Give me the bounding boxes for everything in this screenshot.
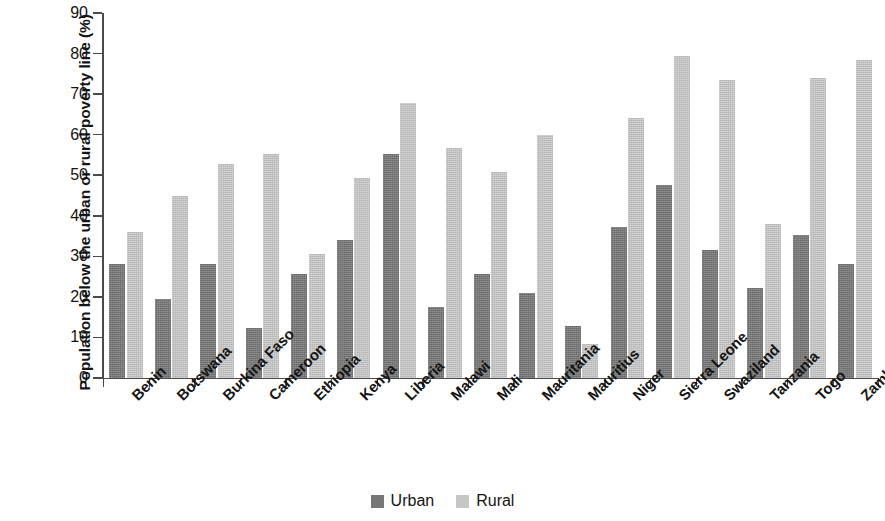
x-axis-tick-label: Burkina Faso [219, 391, 231, 403]
x-axis-tick-label: Liberia [401, 391, 413, 403]
legend-label: Urban [391, 492, 435, 510]
bar-urban-niger [611, 227, 627, 378]
bar-rural-kenya [354, 178, 370, 378]
bar-rural-malawi [446, 148, 462, 378]
y-axis-tick [93, 93, 102, 95]
x-axis-tick [149, 378, 150, 387]
bar-rural-liberia [400, 103, 416, 378]
bar-urban-burkina-faso [200, 264, 216, 378]
legend-item-rural[interactable]: Rural [456, 492, 514, 510]
y-axis-tick [93, 256, 102, 258]
x-axis-tick-label: Sierra Leone [675, 391, 687, 403]
x-axis-tick-label: Malawi [447, 391, 459, 403]
y-axis-tick-label: 40 [48, 207, 88, 225]
bar-chart: Population below the urban or rural pove… [0, 0, 885, 521]
x-axis-tick-label: Tanzania [766, 391, 778, 403]
y-axis-tick-label: 0 [48, 369, 88, 387]
bar-urban-malawi [428, 307, 444, 378]
bar-rural-niger [628, 118, 644, 378]
bar-group [103, 13, 149, 378]
x-axis-tick-label: Cameroon [265, 391, 277, 403]
x-axis-tick [650, 378, 651, 387]
bar-rural-sierra-leone [674, 56, 690, 378]
bar-group [513, 13, 559, 378]
y-axis-tick-label: 10 [48, 328, 88, 346]
x-axis-tick [696, 378, 697, 387]
bar-group [285, 13, 331, 378]
x-axis-tick-label: Swaziland [720, 391, 732, 403]
y-axis-tick [93, 337, 102, 339]
x-axis-tick [878, 378, 879, 387]
x-axis-tick [103, 378, 104, 387]
y-axis-tick-label: 30 [48, 247, 88, 265]
x-axis-tick-label: Niger [629, 391, 641, 403]
bar-group [422, 13, 468, 378]
y-axis-tick [93, 174, 102, 176]
x-axis-tick [285, 378, 286, 387]
bar-urban-swaziland [702, 250, 718, 378]
y-axis-tick [93, 377, 102, 379]
plot-area [103, 13, 878, 378]
y-axis-tick-label: 70 [48, 85, 88, 103]
y-axis-tick-label: 80 [48, 45, 88, 63]
bar-group [696, 13, 742, 378]
bar-urban-mauritania [519, 293, 535, 378]
x-axis-tick-label: Kenya [356, 391, 368, 403]
bar-rural-swaziland [719, 80, 735, 378]
y-axis-tick-labels: 0102030405060708090 [42, 0, 88, 521]
bar-urban-mali [474, 274, 490, 378]
legend-swatch-rural-icon [456, 495, 469, 508]
x-axis-tick [604, 378, 605, 387]
x-axis-tick [787, 378, 788, 387]
bar-urban-ethiopia [291, 274, 307, 378]
bar-urban-kenya [337, 240, 353, 378]
legend-swatch-urban-icon [371, 495, 384, 508]
x-axis-tick [331, 378, 332, 387]
x-axis-tick-label: Togo [812, 391, 824, 403]
y-axis-tick [93, 53, 102, 55]
bar-group [559, 13, 605, 378]
bar-rural-mauritius [582, 344, 598, 378]
bar-group [832, 13, 878, 378]
x-axis-tick [832, 378, 833, 387]
x-axis-tick [559, 378, 560, 387]
bar-group [194, 13, 240, 378]
x-axis-tick-label: Mauritius [584, 391, 596, 403]
x-axis-tick-label: Zambia [857, 391, 869, 403]
bar-urban-tanzania [747, 288, 763, 378]
y-axis-tick [93, 12, 102, 14]
bar-rural-benin [127, 232, 143, 378]
x-axis-tick [741, 378, 742, 387]
x-axis-tick [240, 378, 241, 387]
bar-rural-mauritania [537, 135, 553, 378]
bar-urban-mauritius [565, 326, 581, 378]
x-axis-tick-label: Botswana [173, 391, 185, 403]
y-axis-tick [93, 134, 102, 136]
bar-group [741, 13, 787, 378]
chart-legend: UrbanRural [0, 492, 885, 510]
y-axis-tick [93, 215, 102, 217]
bar-rural-togo [810, 78, 826, 378]
bar-group [604, 13, 650, 378]
bar-group [468, 13, 514, 378]
x-axis-tick-label: Benin [128, 391, 140, 403]
x-axis-tick [422, 378, 423, 387]
x-axis-tick-label: Ethiopia [310, 391, 322, 403]
y-axis-tick-label: 90 [48, 4, 88, 22]
bar-urban-zambia [838, 264, 854, 378]
y-axis-tick [93, 296, 102, 298]
bar-rural-botswana [172, 196, 188, 378]
bar-rural-zambia [856, 60, 872, 378]
bar-urban-togo [793, 235, 809, 378]
x-axis-tick [513, 378, 514, 387]
bar-group [240, 13, 286, 378]
y-axis-tick-label: 60 [48, 126, 88, 144]
bar-rural-ethiopia [309, 254, 325, 378]
legend-item-urban[interactable]: Urban [371, 492, 435, 510]
bar-urban-liberia [383, 154, 399, 378]
bar-rural-cameroon [263, 154, 279, 378]
bar-urban-benin [109, 264, 125, 378]
bar-group [787, 13, 833, 378]
bar-urban-botswana [155, 299, 171, 378]
bar-rural-burkina-faso [218, 164, 234, 378]
